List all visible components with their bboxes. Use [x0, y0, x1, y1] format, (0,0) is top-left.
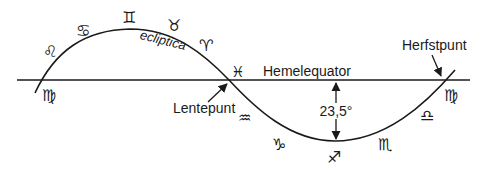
cancer-icon: ♋: [76, 21, 90, 40]
capricorn-icon: ♑: [272, 135, 286, 154]
autumn-point-arrow: [432, 55, 441, 76]
pisces-icon: ♓: [231, 63, 244, 81]
libra-icon: ♎: [420, 106, 434, 125]
virgo-icon: ♍: [42, 86, 56, 105]
ecliptic-diagram: 23,5° ecliptica Hemelequator Lentepunt H…: [0, 0, 486, 171]
obliquity-label: 23,5°: [320, 103, 353, 119]
taurus-icon: ♉: [167, 16, 181, 35]
autumn-point-label: Herfstpunt: [402, 37, 467, 53]
celestial-equator-label: Hemelequator: [263, 63, 351, 79]
gemini-icon: ♊: [122, 8, 136, 27]
scorpio-icon: ♏: [378, 135, 392, 154]
aries-icon: ♈: [199, 36, 213, 55]
sagittarius-icon: ♐: [327, 148, 341, 167]
virgo-right-icon: ♍: [444, 86, 458, 105]
aquarius-icon: ♒: [238, 109, 251, 127]
leo-icon: ♌: [43, 42, 57, 61]
vernal-point-label: Lentepunt: [173, 100, 235, 116]
